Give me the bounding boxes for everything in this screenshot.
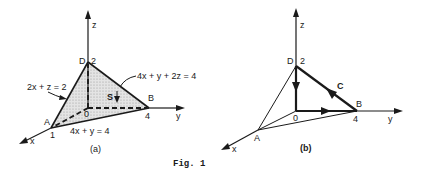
- point-a-value: 1: [50, 130, 55, 140]
- curve-c-arrow-down-icon: [292, 82, 300, 92]
- origin-label: 0: [84, 109, 89, 119]
- curve-c-label: C: [337, 81, 344, 91]
- point-a-label: A: [254, 133, 260, 143]
- point-b-value: 4: [145, 111, 150, 121]
- x-axis-label: x: [30, 136, 35, 146]
- z-axis-arrow-icon: [85, 10, 91, 19]
- y-axis-label: y: [176, 111, 181, 121]
- z-axis-label: z: [92, 20, 97, 30]
- origin-label: 0: [293, 113, 298, 123]
- y-axis-label: y: [388, 114, 393, 124]
- plane-equation: 4x + y + 2z = 4: [137, 71, 196, 81]
- figure-canvas: z y x D 2 B 4 A 1 0 S 4x + y + 2z = 4 2x…: [0, 0, 421, 176]
- point-d-value: 2: [91, 56, 96, 66]
- curve-c-arrow-right-icon: [321, 107, 331, 115]
- panel-a: z y x D 2 B 4 A 1 0 S 4x + y + 2z = 4 2x…: [19, 10, 196, 154]
- panel-b: z y x D 2 B 4 A 0 C (b): [221, 8, 403, 154]
- plane-equation-pointer: [120, 76, 136, 87]
- point-b-label: B: [356, 99, 362, 109]
- x-axis-arrow-icon: [19, 137, 28, 144]
- point-b-label: B: [148, 93, 154, 103]
- point-d-label: D: [79, 56, 86, 66]
- x-axis-arrow-icon: [221, 143, 230, 150]
- point-d-value: 2: [300, 56, 305, 66]
- surface-s-label: S: [107, 92, 113, 102]
- z-axis-arrow-icon: [293, 8, 299, 17]
- figure-caption: Fig. 1: [173, 159, 206, 169]
- curve-c-arrow-up-left-icon: [326, 88, 337, 99]
- xz-trace-pointer-arrow-icon: [59, 95, 67, 100]
- xy-trace-equation: 4x + y = 4: [70, 126, 110, 136]
- y-axis-arrow-icon: [394, 108, 403, 114]
- point-b-value: 4: [353, 114, 358, 124]
- point-a-label: A: [44, 117, 50, 127]
- z-axis-label: z: [300, 20, 305, 30]
- point-d-label: D: [287, 56, 294, 66]
- panel-a-label: (a): [90, 144, 101, 154]
- xz-trace-equation: 2x + z = 2: [27, 82, 67, 92]
- x-axis-label: x: [232, 144, 237, 154]
- x-axis: [25, 128, 51, 141]
- edge-ab: [258, 111, 357, 130]
- panel-b-label: (b): [300, 143, 312, 153]
